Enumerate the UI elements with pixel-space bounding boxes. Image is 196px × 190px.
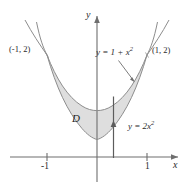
figure-canvas: y x -1 1 (-1, 2) (1, 2) D y = 1 + x2 y =… xyxy=(0,0,196,190)
x-axis-label: x xyxy=(173,160,177,170)
equation-upper-text: y = 1 + x xyxy=(96,47,130,57)
equation-lower-exponent: 2 xyxy=(151,119,154,126)
y-axis-label: y xyxy=(86,10,90,20)
leader-line-upper-curve xyxy=(119,61,134,81)
point-label-left: (-1, 2) xyxy=(9,45,30,54)
graph-svg xyxy=(0,0,196,190)
y-axis-arrowhead xyxy=(94,16,100,23)
equation-upper-exponent: 2 xyxy=(130,45,133,52)
equation-lower-text: y = 2x xyxy=(128,121,151,131)
point-label-right: (1, 2) xyxy=(152,46,170,55)
equation-label-upper: y = 1 + x2 xyxy=(96,46,133,57)
region-label-d: D xyxy=(72,113,80,124)
x-tick-label-neg1: -1 xyxy=(41,162,49,172)
x-tick-label-1: 1 xyxy=(145,162,150,172)
leader-line-arrowhead xyxy=(130,77,135,82)
equation-label-lower: y = 2x2 xyxy=(128,120,154,131)
